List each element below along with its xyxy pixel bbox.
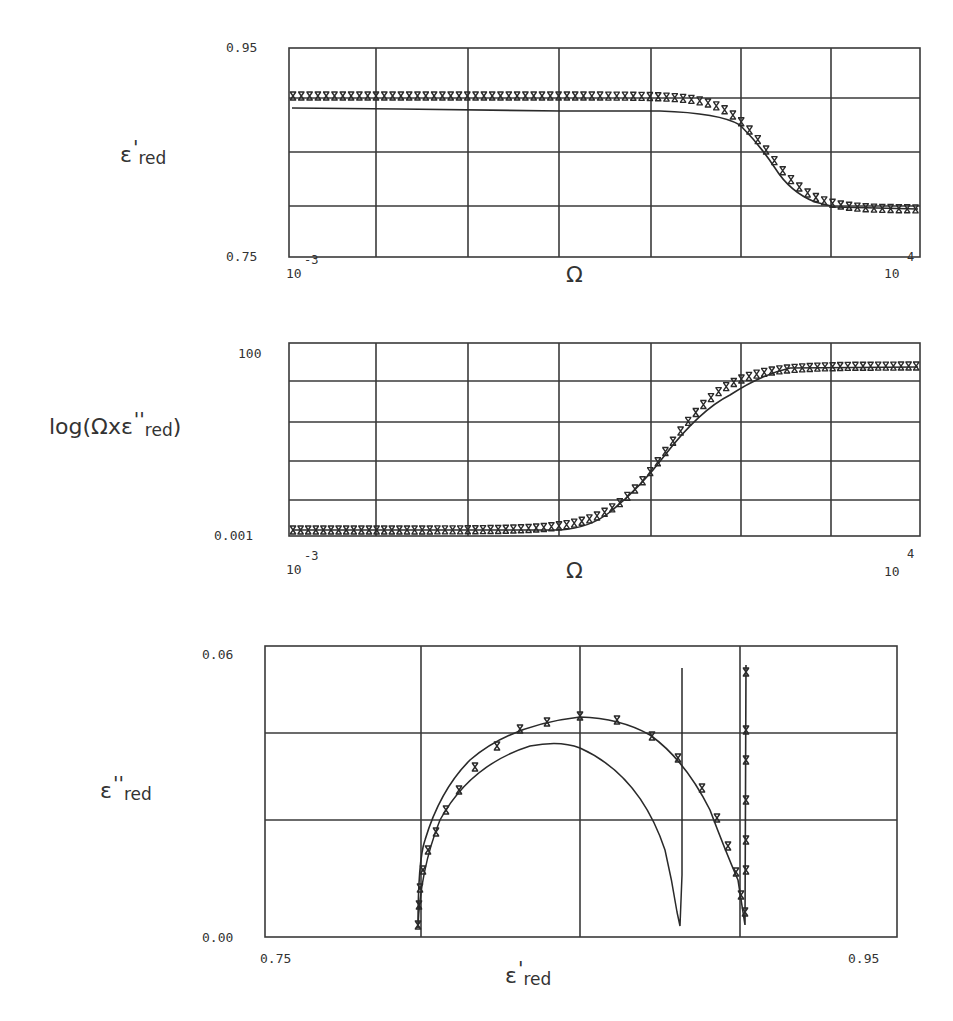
x-marker xyxy=(517,725,523,733)
panel-middle-y-max-tick: 100 xyxy=(238,346,261,361)
x-marker xyxy=(725,842,731,850)
x-marker xyxy=(547,92,553,100)
x-marker xyxy=(845,362,851,370)
x-marker xyxy=(647,93,653,101)
x-marker xyxy=(708,394,714,402)
x-marker xyxy=(796,183,802,191)
panel-middle-grid xyxy=(289,343,920,536)
x-marker xyxy=(489,92,495,100)
x-marker xyxy=(761,368,767,376)
x-marker xyxy=(586,515,592,523)
panel-bottom-data-arc xyxy=(418,665,746,928)
x-marker xyxy=(721,106,727,114)
x-marker xyxy=(443,806,449,814)
x-marker xyxy=(356,92,362,100)
x-marker xyxy=(510,525,516,533)
x-marker xyxy=(753,370,759,378)
panel-bottom-plot xyxy=(265,646,897,937)
x-marker xyxy=(788,176,794,184)
x-marker xyxy=(539,92,545,100)
x-marker xyxy=(746,126,752,134)
panel-top-plot xyxy=(289,48,920,257)
panel-bottom-grid xyxy=(265,646,897,937)
panel-bottom-y-min-tick: 0.00 xyxy=(202,930,233,945)
x-marker xyxy=(594,512,600,520)
x-marker xyxy=(580,92,586,100)
x-marker xyxy=(506,92,512,100)
x-marker xyxy=(348,92,354,100)
x-marker xyxy=(614,716,620,724)
x-marker xyxy=(614,92,620,100)
x-marker xyxy=(746,372,752,380)
x-marker xyxy=(804,189,810,197)
x-marker xyxy=(398,92,404,100)
x-marker xyxy=(494,742,500,750)
x-marker xyxy=(771,157,777,165)
x-marker xyxy=(655,93,661,101)
panel-bottom-model-arc xyxy=(418,668,682,928)
x-marker xyxy=(406,92,412,100)
panel-top-y-min-tick: 0.75 xyxy=(226,249,257,264)
x-marker xyxy=(731,378,737,386)
panel-bottom-xlabel: ε'red xyxy=(505,963,551,988)
x-marker xyxy=(365,92,371,100)
panel-bottom-y-max-tick: 0.06 xyxy=(202,647,233,662)
panel-bottom-x-min-tick: 0.75 xyxy=(260,951,291,966)
x-marker xyxy=(852,362,858,370)
panel-middle-y-min-tick: 0.001 xyxy=(214,528,253,543)
panel-middle-x-min-exp: -3 xyxy=(304,549,318,563)
x-marker xyxy=(883,362,889,370)
x-marker xyxy=(525,524,531,532)
x-marker xyxy=(381,92,387,100)
x-marker xyxy=(723,383,729,391)
panel-top-y-max-tick: 0.95 xyxy=(226,40,257,55)
x-marker xyxy=(860,362,866,370)
x-marker xyxy=(431,92,437,100)
x-marker xyxy=(715,388,721,396)
x-marker xyxy=(905,362,911,370)
x-marker xyxy=(414,92,420,100)
panel-top-ylabel: ε'red xyxy=(120,142,166,167)
x-marker xyxy=(605,92,611,100)
panel-top-model-curve xyxy=(292,108,918,209)
panel-bottom-x-max-tick: 0.95 xyxy=(848,951,879,966)
panel-middle-x-max-exp: 4 xyxy=(907,547,914,561)
x-marker xyxy=(639,477,645,485)
x-marker xyxy=(448,92,454,100)
x-marker xyxy=(763,146,769,154)
x-marker xyxy=(875,362,881,370)
x-marker xyxy=(705,99,711,107)
panel-middle-x-max-base: 10 xyxy=(884,564,900,579)
x-marker xyxy=(564,92,570,100)
x-marker xyxy=(298,92,304,100)
panel-middle-xlabel-omega: Ω xyxy=(566,558,583,583)
x-marker xyxy=(497,92,503,100)
panel-top-grid xyxy=(289,48,920,257)
x-marker xyxy=(663,93,669,101)
x-marker xyxy=(699,784,705,792)
panel-top-x-max-exp: 4 xyxy=(907,250,914,264)
x-marker xyxy=(700,401,706,409)
x-marker xyxy=(340,92,346,100)
panel-middle-data-markers xyxy=(290,362,920,534)
x-marker xyxy=(630,92,636,100)
x-marker xyxy=(780,167,786,175)
panel-middle-plot xyxy=(289,343,920,536)
x-marker xyxy=(472,92,478,100)
x-marker xyxy=(632,485,638,493)
x-marker xyxy=(688,95,694,103)
x-marker xyxy=(913,362,919,370)
x-marker xyxy=(813,193,819,201)
panel-middle-model-curve xyxy=(292,367,918,530)
x-marker xyxy=(290,92,296,100)
panel-middle-x-min-base: 10 xyxy=(286,562,302,577)
x-marker xyxy=(589,92,595,100)
panel-bottom-data-markers xyxy=(415,668,749,929)
x-marker xyxy=(472,763,478,771)
x-marker xyxy=(315,92,321,100)
epsilon-symbol: ε xyxy=(505,963,517,988)
panel-top-x-max-base: 10 xyxy=(884,266,900,281)
x-marker xyxy=(481,92,487,100)
x-marker xyxy=(389,92,395,100)
x-marker xyxy=(755,136,761,144)
